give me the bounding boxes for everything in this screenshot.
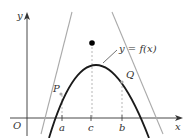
point-q: [120, 80, 123, 83]
point-p-label: P: [52, 83, 60, 94]
tick-label-c: c: [88, 122, 94, 133]
tangent-lines: [41, 12, 163, 134]
x-axis-label: x: [175, 121, 181, 132]
curve-label: y = f(x): [118, 43, 157, 54]
point-p: [59, 92, 62, 95]
tangent-at-q: [112, 12, 163, 134]
dashed-guides: [62, 43, 122, 118]
point-q-label: Q: [126, 69, 134, 80]
y-axis: [24, 12, 30, 136]
intersection-point: [89, 40, 95, 46]
curve-label-leader: [103, 50, 117, 63]
origin-label: O: [13, 120, 21, 131]
tick-label-a: a: [59, 122, 65, 133]
tick-label-b: b: [119, 122, 125, 133]
y-axis-label: y: [16, 10, 23, 21]
diagram-canvas: y x O a c b P Q y = f(x): [0, 0, 185, 138]
